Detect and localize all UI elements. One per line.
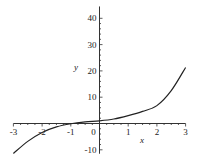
y-tick-label: 40 xyxy=(88,13,98,23)
y-tick-label: 10 xyxy=(88,92,98,102)
x-tick-label: -1 xyxy=(67,127,75,137)
x-axis-label: x xyxy=(139,135,144,145)
x-tick-label: 2 xyxy=(155,127,160,137)
y-axis-label: y xyxy=(73,62,78,72)
axes: -3-2-10123-1010203040 xyxy=(10,6,189,154)
x-tick-label: 0 xyxy=(91,127,96,137)
x-tick-label: -3 xyxy=(10,127,18,137)
y-tick-label: -10 xyxy=(85,145,97,155)
x-tick-label: 3 xyxy=(183,127,188,137)
y-tick-label: 20 xyxy=(88,66,98,76)
chart: -3-2-10123-1010203040 x y xyxy=(0,0,197,168)
y-tick-label: 30 xyxy=(88,40,98,50)
x-tick-label: 1 xyxy=(126,127,131,137)
plot-area: -3-2-10123-1010203040 x y xyxy=(0,0,197,168)
